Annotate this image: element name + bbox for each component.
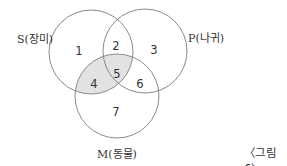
region-3: 3 bbox=[150, 43, 157, 57]
set-label-s: S(장미) bbox=[17, 30, 53, 46]
region-5: 5 bbox=[113, 67, 120, 81]
region-7: 7 bbox=[112, 105, 119, 119]
figure-caption: 〈그림 6〉 bbox=[244, 144, 287, 166]
region-2: 2 bbox=[112, 39, 119, 53]
set-label-p: P(나귀) bbox=[188, 29, 224, 45]
region-4: 4 bbox=[90, 77, 97, 91]
set-label-m: M(동물) bbox=[97, 145, 137, 161]
region-1: 1 bbox=[75, 44, 82, 58]
region-6: 6 bbox=[136, 77, 143, 91]
